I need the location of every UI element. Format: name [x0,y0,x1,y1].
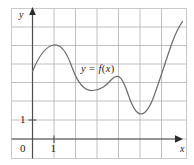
y-axis-label: y [19,10,23,20]
curve-equation-label: y=f(x) [81,64,115,75]
origin-label: 0 [20,143,26,154]
x-axis-label: x [180,144,184,154]
y-tick-label-1: 1 [20,114,26,125]
function-graph-figure: y x 0 1 1 y=f(x) [0,0,194,165]
plot-canvas [0,0,194,165]
plot-border [12,9,187,159]
curve-label-close-paren: ) [111,63,115,74]
curve-label-lhs: y [81,63,86,74]
x-tick-label-1: 1 [51,143,57,154]
curve-label-equals: = [89,63,95,74]
